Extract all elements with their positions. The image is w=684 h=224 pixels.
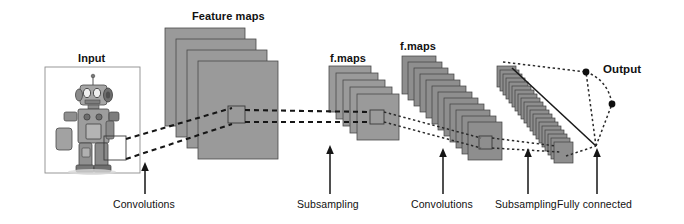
input-image-frame: [45, 67, 140, 175]
feature-maps-stack: [165, 28, 278, 159]
op-label-subsampling-2: Subsampling: [495, 198, 557, 210]
arrow-subsampling-2: [524, 148, 532, 194]
output-node-2: [609, 101, 616, 108]
diagram-canvas: [0, 0, 684, 224]
fmaps-stack-2: [329, 66, 399, 140]
arrow-convolutions-2: [439, 148, 447, 194]
op-label-convolutions-2: Convolutions: [411, 198, 473, 210]
arrow-fully-connected: [593, 148, 601, 194]
fmaps-stack-3: [402, 56, 502, 160]
arrow-subsampling-1: [326, 145, 334, 194]
arrow-convolutions-1: [141, 162, 149, 194]
cnn-architecture-diagram: Input Feature maps f.maps f.maps Output: [0, 0, 684, 224]
op-label-subsampling-1: Subsampling: [297, 198, 359, 210]
op-label-fully-connected: Fully connected: [557, 198, 632, 210]
output-node-1: [583, 69, 590, 76]
op-label-convolutions-1: Convolutions: [113, 198, 175, 210]
